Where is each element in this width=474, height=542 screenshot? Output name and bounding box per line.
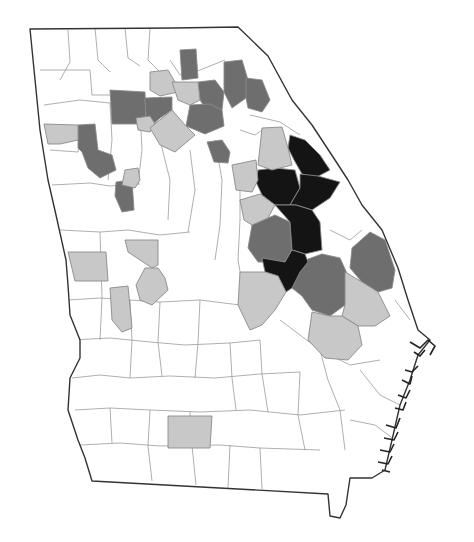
map-canvas — [0, 0, 474, 542]
county-medium[interactable] — [180, 49, 198, 80]
county-low[interactable] — [168, 416, 212, 448]
county-low[interactable] — [122, 168, 140, 188]
georgia-county-map — [0, 0, 474, 542]
county-low[interactable] — [232, 160, 258, 192]
county-low[interactable] — [44, 124, 78, 144]
county-low[interactable] — [68, 252, 108, 281]
